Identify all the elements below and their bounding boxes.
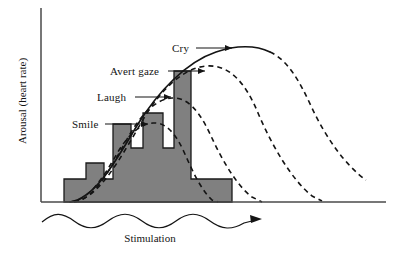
- figure-container: Cry Avert gaze Laugh Smile Arousal (hear…: [0, 0, 395, 255]
- annotation-arrows: [105, 45, 232, 127]
- arousal-stimulation-plot: [0, 0, 395, 255]
- wavy-arrow-head: [250, 215, 262, 223]
- curve-cry-dashed: [270, 52, 366, 180]
- curve-label-smile: Smile: [72, 118, 99, 130]
- arrow-head-cry: [225, 45, 232, 51]
- histogram-path: [64, 71, 232, 202]
- curve-label-cry: Cry: [172, 42, 189, 54]
- curve-label-laugh: Laugh: [97, 91, 126, 103]
- curve-label-avert-gaze: Avert gaze: [110, 65, 159, 77]
- stimulation-wave-arrow: [42, 214, 262, 228]
- arrow-head-laugh: [164, 94, 171, 100]
- wavy-line: [42, 214, 256, 228]
- x-axis-label: Stimulation: [0, 232, 300, 244]
- y-axis-label: Arousal (heart rate): [16, 31, 28, 171]
- arrow-head-avert-gaze: [198, 68, 205, 74]
- histogram-bars: [64, 71, 232, 202]
